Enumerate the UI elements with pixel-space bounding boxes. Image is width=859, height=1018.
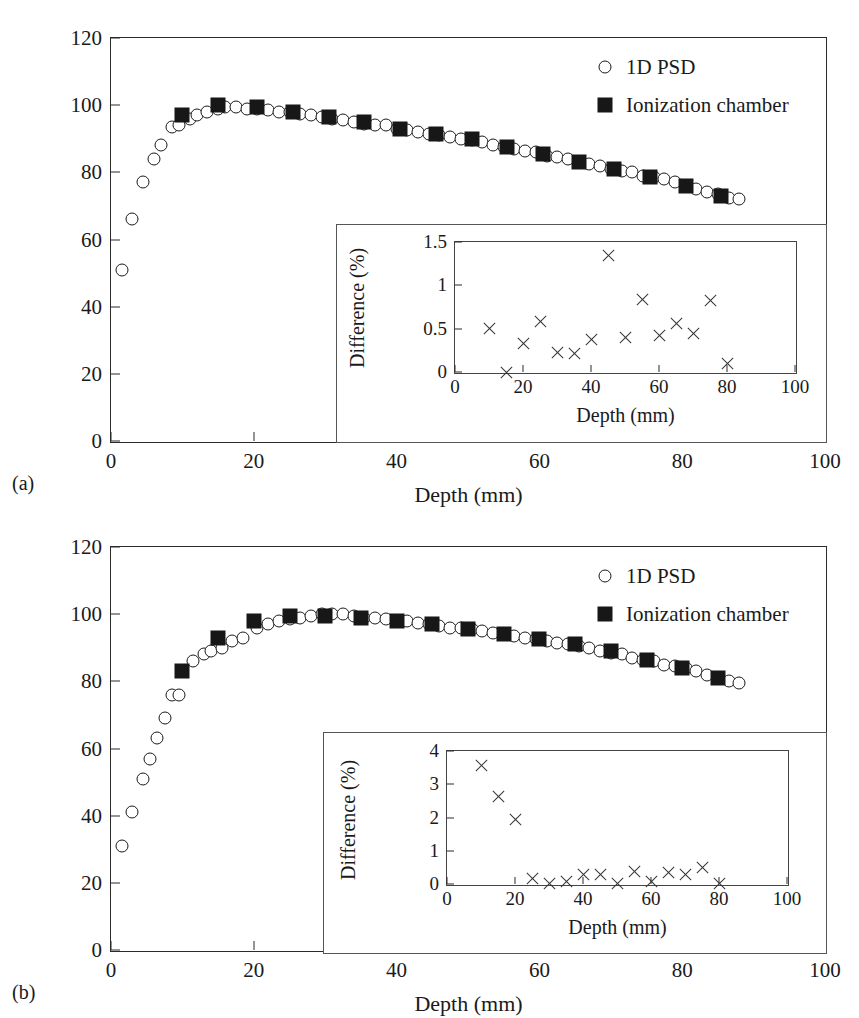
legend-label-1d-psd: 1D PSD xyxy=(626,55,695,80)
cross-marker xyxy=(678,867,693,882)
open-circle-marker xyxy=(144,752,157,765)
cross-marker xyxy=(576,867,591,882)
y-tick-mark xyxy=(111,614,120,615)
cross-marker xyxy=(669,316,684,331)
cross-marker xyxy=(516,336,531,351)
inset-y-axis-label-b: Difference (%) xyxy=(337,725,363,915)
filled-square-marker xyxy=(211,98,226,113)
filled-square-marker xyxy=(714,188,729,203)
y-tick-mark xyxy=(111,681,120,682)
cross-marker xyxy=(559,874,574,889)
filled-square-marker xyxy=(246,613,261,628)
panel-a: Percentage depth dose (%) 02040608010012… xyxy=(0,0,859,509)
y-tick-label: 20 xyxy=(81,870,102,895)
x-tick-mark xyxy=(447,877,448,884)
y-tick-mark xyxy=(111,815,120,816)
cross-marker xyxy=(593,867,608,882)
cross-marker xyxy=(703,293,718,308)
x-tick-label: 80 xyxy=(672,449,693,474)
filled-square-marker xyxy=(318,608,333,623)
y-tick-label: 120 xyxy=(71,26,103,51)
y-tick-label: 0 xyxy=(438,361,448,383)
y-tick-label: 60 xyxy=(81,227,102,252)
y-tick-mark xyxy=(111,950,120,951)
filled-square-marker xyxy=(603,644,618,659)
y-tick-mark xyxy=(447,884,454,885)
x-tick-label: 0 xyxy=(450,376,460,398)
legend-b: 1D PSD Ionization chamber xyxy=(596,557,789,633)
y-tick-mark xyxy=(111,239,120,240)
open-circle-marker xyxy=(126,213,139,226)
panel-b: Percentage depth dose (%) 02040608010012… xyxy=(0,509,859,1018)
open-circle-icon xyxy=(596,58,622,76)
filled-square-marker xyxy=(496,627,511,642)
inset-b: Difference (%) 01234020406080100 Depth (… xyxy=(323,732,827,954)
x-tick-mark xyxy=(111,432,112,441)
y-tick-label: 80 xyxy=(81,669,102,694)
inset-a: Difference (%) 00.511.5020406080100 Dept… xyxy=(336,224,827,443)
open-circle-marker xyxy=(154,139,167,152)
panel-tag-a: (a) xyxy=(12,472,34,495)
x-tick-label: 80 xyxy=(672,958,693,983)
y-tick-mark xyxy=(111,172,120,173)
open-circle-marker xyxy=(126,806,139,819)
y-tick-label: 120 xyxy=(71,535,103,560)
y-tick-mark xyxy=(111,306,120,307)
y-tick-label: 100 xyxy=(71,602,103,627)
legend-label-ionization-chamber: Ionization chamber xyxy=(626,602,789,627)
x-tick-mark xyxy=(787,877,788,884)
x-tick-label: 0 xyxy=(106,958,117,983)
legend-label-ionization-chamber: Ionization chamber xyxy=(626,93,789,118)
x-tick-label: 100 xyxy=(781,376,810,398)
x-tick-mark xyxy=(455,365,456,372)
open-circle-icon xyxy=(596,567,622,585)
cross-marker xyxy=(567,346,582,361)
open-circle-marker xyxy=(115,263,128,276)
x-tick-label: 100 xyxy=(773,888,802,910)
x-tick-mark xyxy=(111,941,112,950)
open-circle-marker xyxy=(137,772,150,785)
cross-marker xyxy=(695,860,710,875)
x-tick-mark xyxy=(253,432,254,441)
open-circle-marker xyxy=(137,176,150,189)
cross-marker xyxy=(644,874,659,889)
y-tick-label: 3 xyxy=(430,773,440,795)
filled-square-marker xyxy=(535,146,550,161)
filled-square-marker xyxy=(282,608,297,623)
y-tick-mark xyxy=(111,547,120,548)
filled-square-icon xyxy=(596,605,622,623)
open-circle-marker xyxy=(733,677,746,690)
x-tick-label: 20 xyxy=(243,958,264,983)
plot-frame-b: 020406080100120020406080100 1D PSD Ioniz… xyxy=(110,546,827,952)
y-tick-mark xyxy=(447,850,454,851)
cross-marker xyxy=(635,292,650,307)
legend-item-ionization-chamber: Ionization chamber xyxy=(596,595,789,633)
filled-square-marker xyxy=(532,632,547,647)
y-tick-mark xyxy=(447,784,454,785)
legend-a: 1D PSD Ionization chamber xyxy=(596,48,789,124)
cross-marker xyxy=(652,328,667,343)
y-tick-mark xyxy=(111,882,120,883)
filled-square-marker xyxy=(710,670,725,685)
legend-item-ionization-chamber: Ionization chamber xyxy=(596,86,789,124)
filled-square-marker xyxy=(175,108,190,123)
x-tick-label: 60 xyxy=(529,449,550,474)
cross-marker xyxy=(482,321,497,336)
cross-marker xyxy=(627,864,642,879)
y-tick-label: 80 xyxy=(81,160,102,185)
filled-square-marker xyxy=(607,161,622,176)
filled-square-marker xyxy=(425,617,440,632)
x-tick-mark xyxy=(591,365,592,372)
cross-marker xyxy=(618,330,633,345)
y-tick-label: 20 xyxy=(81,361,102,386)
x-tick-label: 60 xyxy=(642,888,661,910)
inset-x-axis-label-a: Depth (mm) xyxy=(454,404,797,427)
filled-square-marker xyxy=(643,170,658,185)
filled-square-marker xyxy=(464,131,479,146)
y-tick-mark xyxy=(455,372,462,373)
y-tick-label: 100 xyxy=(71,93,103,118)
filled-square-marker xyxy=(571,155,586,170)
y-tick-mark xyxy=(447,751,454,752)
y-tick-label: 0 xyxy=(430,873,440,895)
cross-marker xyxy=(712,876,727,891)
